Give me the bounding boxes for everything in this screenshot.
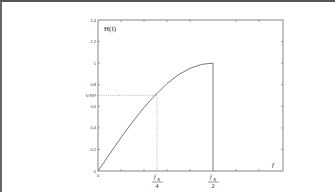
guide-lines: [86, 95, 157, 171]
x-axis-label: f: [272, 161, 275, 169]
ytick-0.4: 0.4: [90, 125, 96, 130]
ytick-0.2: 0.2: [90, 147, 96, 152]
ytick-0.8: 0.8: [90, 82, 96, 87]
ytick-1: 1: [94, 61, 97, 66]
xtick-0: 0: [97, 173, 100, 178]
chart-svg: 0 0.2 0.4 0.6 0.8 1 1.2 1.4 0.707 0 H(f)…: [0, 0, 335, 192]
y-axis-label: H(f): [104, 25, 117, 33]
ytick-1.2: 1.2: [90, 39, 96, 44]
xmark-fs-over-2: f s 2: [208, 174, 219, 189]
ytick-1.4: 1.4: [90, 18, 96, 23]
frac1-sub: s: [158, 176, 161, 182]
response-curve: [98, 63, 213, 171]
frac2-den: 2: [212, 183, 215, 189]
frac2-sub: s: [214, 176, 217, 182]
frac1-den: 4: [156, 183, 159, 189]
xmark-fs-over-4: f s 4: [152, 174, 163, 189]
ytick-0.6: 0.6: [90, 104, 96, 109]
